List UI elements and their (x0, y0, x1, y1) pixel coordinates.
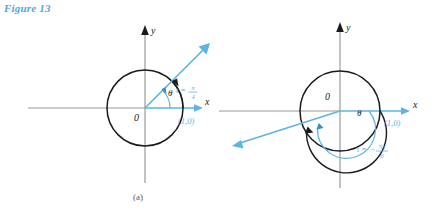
t-numerator-b: 5π (378, 143, 386, 151)
origin-label-b: 0 (325, 91, 330, 102)
unit-circle-diagram-a: y x 0 θ (1,0) t = π 4 (0, 0, 217, 220)
t-numerator-a: π (191, 84, 195, 92)
figure-container: Figure 13 (0, 0, 434, 220)
x-axis-positive-b (340, 107, 410, 115)
point-label-b: (1,0) (384, 118, 400, 128)
t-denominator-b: 6 (380, 152, 384, 160)
panel-a: y x 0 θ (1,0) t = π 4 (a) (0, 0, 217, 220)
angle-label-a: θ (168, 88, 173, 98)
x-axis-positive-a (145, 104, 203, 112)
angle-label-b: θ (357, 108, 362, 118)
axis-y-label-b: y (345, 22, 351, 33)
terminal-ray-a (145, 43, 210, 108)
panel-caption-a: (a) (118, 192, 158, 202)
y-axis-a (141, 25, 149, 183)
t-denominator-a: 4 (191, 93, 195, 101)
unit-circle-diagram-b: y x 0 θ (1,0) t = − 5π 6 (217, 0, 434, 220)
axis-x-label-a: x (204, 96, 210, 107)
axis-x-label-b: x (412, 99, 418, 110)
t-sign-b: − (370, 145, 375, 154)
t-prefix-b: t = (357, 145, 367, 154)
panel-b: y x 0 θ (1,0) t = − 5π 6 (b) (217, 0, 434, 220)
t-prefix-a: t = (176, 86, 186, 95)
axis-y-label-a: y (150, 25, 156, 36)
point-label-a: (1,0) (178, 116, 194, 126)
y-axis-b (336, 22, 344, 188)
t-value-label-b: t = − 5π 6 (357, 143, 388, 160)
t-value-label-a: t = π 4 (176, 84, 198, 101)
origin-label-a: 0 (134, 112, 139, 123)
terminal-ray-b (232, 111, 340, 149)
